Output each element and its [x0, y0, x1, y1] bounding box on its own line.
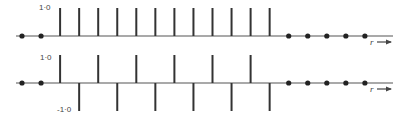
bottom-zero-sample	[343, 80, 348, 85]
top-zero-sample	[19, 33, 24, 38]
top-zero-sample	[38, 33, 43, 38]
bottom-zero-sample	[362, 80, 367, 85]
top-zero-sample	[362, 33, 367, 38]
top-y-max-label: 1·0	[39, 3, 51, 12]
top-zero-sample	[305, 33, 310, 38]
top-zero-sample	[343, 33, 348, 38]
top-zero-sample	[286, 33, 291, 38]
bottom-zero-sample	[324, 80, 329, 85]
bottom-y-max-label: 1·0	[40, 53, 52, 62]
bottom-zero-sample	[38, 80, 43, 85]
top-zero-sample	[324, 33, 329, 38]
bottom-stem-plot: 1·0 -1·0 r	[16, 53, 393, 114]
bottom-zero-sample	[286, 80, 291, 85]
top-arrow-icon	[377, 40, 392, 45]
top-x-axis-label: r	[370, 37, 374, 47]
bottom-y-min-label: -1·0	[57, 105, 72, 114]
stem-plot-figure: 1·0 r 1·0 -1·0 r	[0, 0, 406, 122]
bottom-arrow-icon	[377, 87, 392, 92]
bottom-zero-sample	[305, 80, 310, 85]
bottom-zero-sample	[19, 80, 24, 85]
bottom-x-axis-label: r	[370, 84, 374, 94]
top-stem-plot: 1·0 r	[16, 3, 393, 47]
